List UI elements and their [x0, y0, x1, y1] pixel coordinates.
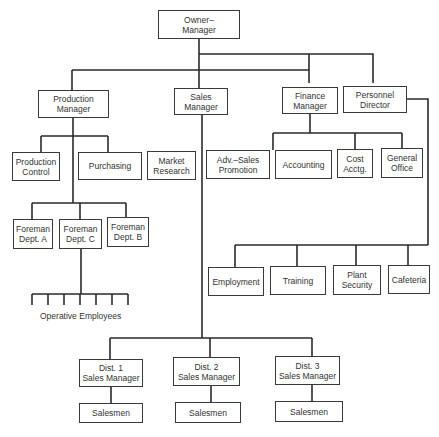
node-text: Foreman — [111, 222, 145, 232]
node-text: Foreman — [16, 224, 50, 234]
node-text: Accounting — [282, 160, 324, 170]
operative-employees-label: Operative Employees — [40, 311, 121, 321]
node-foreman-dept-b: Foreman Dept. B — [107, 217, 149, 247]
node-text: Promotion — [219, 165, 258, 175]
node-dist3-sales-manager: Dist. 3 Sales Manager — [275, 356, 340, 385]
node-text: General — [387, 153, 417, 163]
node-dist1-sales-manager: Dist. 1 Sales Manager — [79, 359, 143, 387]
node-text: Dist. 2 — [194, 362, 218, 372]
node-text: Personnel — [356, 90, 394, 100]
node-purchasing: Purchasing — [78, 152, 142, 180]
node-text: Foreman — [63, 224, 97, 234]
node-text: Director — [360, 100, 390, 110]
node-general-office: General Office — [381, 148, 423, 178]
node-production-control: Production Control — [12, 152, 60, 181]
node-text: Control — [22, 167, 49, 177]
node-text: Sales Manager — [279, 371, 336, 381]
node-finance-manager: Finance Manager — [282, 87, 338, 114]
node-foreman-dept-a: Foreman Dept. A — [13, 219, 53, 249]
node-sales-manager: Sales Manager — [174, 88, 228, 115]
node-text: Sales Manager — [82, 373, 139, 383]
node-text: Security — [342, 280, 373, 290]
node-salesmen-1: Salesmen — [79, 403, 143, 423]
node-text: Employment — [212, 277, 259, 287]
node-text: Cost — [346, 154, 363, 164]
node-text: Research — [153, 166, 189, 176]
node-text: Sales Manager — [178, 372, 235, 382]
node-adv-sales-promotion: Adv.–Sales Promotion — [206, 150, 270, 179]
node-text: Manager — [293, 101, 327, 111]
node-text: Salesmen — [290, 407, 328, 417]
node-text: Manager — [57, 104, 91, 114]
node-salesmen-3: Salesmen — [275, 401, 343, 422]
node-employment: Employment — [208, 267, 264, 296]
node-text: Training — [283, 276, 313, 286]
node-training: Training — [270, 266, 326, 295]
node-text: Salesmen — [189, 408, 227, 418]
node-text: Adv.–Sales — [217, 155, 259, 165]
node-text: Manager — [184, 102, 218, 112]
node-cost-acctg: Cost Acctg. — [337, 149, 373, 178]
node-foreman-dept-c: Foreman Dept. C — [59, 219, 102, 249]
node-text: Production — [53, 94, 94, 104]
node-text: Dept. B — [114, 232, 142, 242]
node-salesmen-2: Salesmen — [175, 402, 241, 423]
node-production-manager: Production Manager — [38, 90, 109, 118]
node-plant-security: Plant Security — [333, 265, 381, 295]
node-text: Plant — [347, 270, 366, 280]
node-text: Dist. 1 — [99, 363, 123, 373]
node-text: Manager — [182, 25, 216, 35]
node-text: Dist. 3 — [295, 361, 319, 371]
node-owner-manager: Owner– Manager — [158, 10, 240, 39]
node-text: Market — [159, 156, 185, 166]
node-text: Sales — [190, 92, 211, 102]
node-market-research: Market Research — [147, 151, 196, 180]
node-text: Purchasing — [89, 161, 132, 171]
node-dist2-sales-manager: Dist. 2 Sales Manager — [173, 357, 240, 386]
node-text: Dept. A — [19, 234, 47, 244]
node-text: Salesmen — [92, 408, 130, 418]
node-text: Office — [391, 163, 413, 173]
node-text: Owner– — [184, 15, 214, 25]
node-personnel-director: Personnel Director — [343, 86, 407, 113]
node-text: Production — [16, 157, 57, 167]
node-cafeteria: Cafeteria — [388, 265, 430, 294]
node-text: Cafeteria — [392, 275, 427, 285]
node-text: Acctg. — [343, 164, 367, 174]
node-text: Finance — [295, 91, 325, 101]
node-text: Dept. C — [66, 234, 95, 244]
node-accounting: Accounting — [275, 150, 332, 179]
